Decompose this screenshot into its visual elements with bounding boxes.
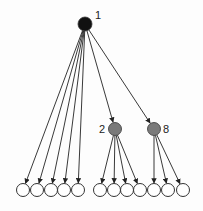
root-node-root [78, 17, 92, 31]
edge-root-to-n2 [87, 31, 113, 123]
leaf-node-leaf4 [58, 184, 71, 197]
leaf-node-leaf5 [72, 184, 85, 197]
edge-n8-to-leaf11 [155, 135, 166, 183]
node-label-n2: 2 [99, 123, 105, 135]
leaf-node-leaf8 [121, 184, 134, 197]
labels-layer: 128 [95, 9, 169, 135]
leaf-node-leaf10 [148, 184, 161, 197]
internal-node-n8 [148, 123, 161, 136]
edge-root-to-n8 [89, 30, 150, 123]
leaf-node-leaf9 [134, 184, 147, 197]
edge-n2-to-leaf9 [117, 135, 137, 184]
leaf-node-leaf2 [31, 184, 44, 197]
edge-root-to-leaf2 [39, 31, 83, 184]
tree-diagram: 128 [0, 0, 203, 211]
edge-n8-to-leaf12 [157, 135, 180, 184]
leaf-node-leaf12 [177, 184, 190, 197]
leaf-node-leaf7 [108, 184, 121, 197]
edge-root-to-leaf1 [25, 31, 82, 184]
leaf-node-leaf3 [45, 184, 58, 197]
leaf-node-leaf11 [162, 184, 175, 197]
leaf-node-leaf6 [94, 184, 107, 197]
leaf-node-leaf1 [17, 184, 30, 197]
internal-node-n2 [109, 123, 122, 136]
edge-n2-to-leaf6 [102, 135, 114, 183]
edges-layer [25, 30, 180, 184]
node-label-root: 1 [95, 9, 101, 21]
edge-n2-to-leaf7 [114, 135, 115, 183]
node-label-n8: 8 [163, 123, 169, 135]
